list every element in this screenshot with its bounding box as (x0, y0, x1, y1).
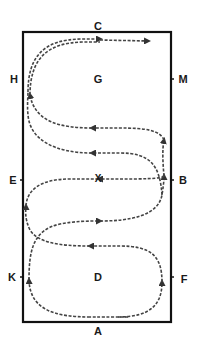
center-marker-X: X (95, 174, 102, 184)
letter-A: A (94, 326, 102, 337)
letter-M: M (178, 74, 187, 85)
letter-C: C (94, 21, 102, 32)
letter-F: F (181, 274, 188, 285)
letter-B: B (179, 175, 187, 186)
letter-E: E (9, 175, 16, 186)
arena-diagram: C H G M E B K D F A X (0, 0, 197, 352)
letter-G: G (94, 74, 103, 85)
letter-D: D (94, 272, 102, 283)
letter-K: K (8, 272, 16, 283)
letter-H: H (10, 74, 18, 85)
